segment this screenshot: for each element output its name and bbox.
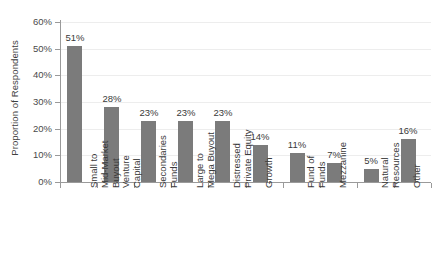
x-axis-label: DistressedPrivate Equity <box>231 129 253 188</box>
x-axis-label-line: Funds <box>168 135 179 188</box>
x-axis-label-line: Small to <box>88 140 99 188</box>
x-axis-label: SecondariesFunds <box>157 135 179 188</box>
x-tick-mark <box>431 183 432 188</box>
bar-value-label: 23% <box>166 108 206 118</box>
bar-value-label: 28% <box>92 94 132 104</box>
x-axis-label-line: Capital <box>131 155 142 188</box>
x-axis-label: Mezzanine <box>337 142 348 188</box>
bar[interactable] <box>364 169 379 182</box>
x-tick-mark <box>60 183 61 188</box>
bar-value-label: 23% <box>203 108 243 118</box>
x-axis-label-line: Large to <box>194 132 205 188</box>
x-axis-label-line: Resources <box>390 143 401 188</box>
bar[interactable] <box>290 153 305 182</box>
bar[interactable] <box>178 121 193 182</box>
x-axis-label: Other <box>411 164 422 188</box>
x-tick-mark <box>283 183 284 188</box>
x-axis-label: Large toMega Buyout <box>194 132 216 188</box>
x-axis-label-line: Growth <box>263 157 274 188</box>
x-axis-label: Growth <box>263 157 274 188</box>
x-axis-label: Fund ofFunds <box>305 156 327 188</box>
bar[interactable] <box>215 121 230 182</box>
bar-value-label: 23% <box>129 108 169 118</box>
bars-layer: 51%28%23%23%23%14%11%7%5%16% <box>0 0 442 270</box>
x-tick-mark <box>357 183 358 188</box>
x-axis-label: VentureCapital <box>120 155 142 188</box>
bar-value-label: 16% <box>388 126 428 136</box>
bar-chart: Proportion of Respondents 0%10%20%30%40%… <box>0 0 442 270</box>
x-axis-label: NaturalResources <box>379 143 401 188</box>
bar-value-label: 11% <box>277 140 317 150</box>
bar[interactable] <box>67 46 82 182</box>
x-axis-label-line: Private Equity <box>242 129 253 188</box>
x-axis-label-line: Mezzanine <box>337 142 348 188</box>
x-axis-label: Small toMid-MarketBuyout <box>88 140 121 188</box>
x-axis-label-line: Other <box>411 164 422 188</box>
x-axis-label-line: Mid-Market <box>99 140 110 188</box>
x-axis-label-line: Fund of <box>305 156 316 188</box>
x-axis-label-line: Mega Buyout <box>205 132 216 188</box>
x-axis-label-line: Natural <box>379 143 390 188</box>
bar-value-label: 51% <box>55 33 95 43</box>
x-axis-label-line: Distressed <box>231 129 242 188</box>
x-axis-label-line: Funds <box>316 156 327 188</box>
bar[interactable] <box>141 121 156 182</box>
x-axis-label-line: Venture <box>120 155 131 188</box>
x-axis-label-line: Secondaries <box>157 135 168 188</box>
